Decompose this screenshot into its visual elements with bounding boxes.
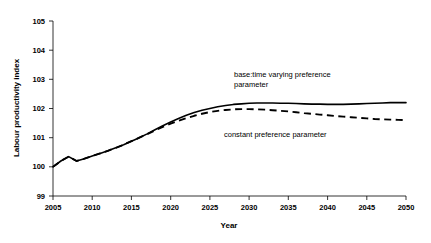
x-tick-label: 2020: [162, 203, 179, 212]
x-axis-title: Year: [221, 221, 238, 230]
annotation-base-line1: base:time varying preference: [234, 70, 331, 79]
annotation-base-line2: parameter: [234, 80, 269, 89]
y-tick-label: 105: [32, 17, 45, 26]
x-tick-label: 2025: [202, 203, 219, 212]
annotation-constant-line1: constant preference parameter: [224, 130, 327, 139]
y-tick-label: 100: [32, 162, 45, 171]
y-axis-title: Labour productivity index: [12, 58, 21, 157]
y-tick-label: 104: [32, 46, 45, 55]
x-tick-label: 2040: [319, 203, 336, 212]
y-tick-label: 102: [32, 104, 45, 113]
annotation-constant: constant preference parameter: [224, 130, 327, 139]
x-tick-label: 2005: [45, 203, 62, 212]
y-tick-label: 99: [37, 192, 45, 201]
y-tick-label: 103: [32, 75, 45, 84]
labour-productivity-chart: 105 104 103 102 101 100 99 2005 2010 201…: [0, 0, 431, 243]
x-tick-label: 2030: [241, 203, 258, 212]
y-tick-label: 101: [32, 133, 45, 142]
x-tick-label: 2045: [358, 203, 375, 212]
x-tick-label: 2050: [398, 203, 415, 212]
x-tick-label: 2010: [84, 203, 101, 212]
x-tick-label: 2035: [280, 203, 297, 212]
x-tick-label: 2015: [123, 203, 140, 212]
